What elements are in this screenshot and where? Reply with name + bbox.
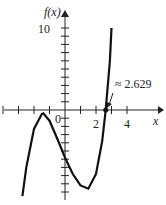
tick-label-2: 2	[93, 117, 99, 131]
x-axis-label: x	[152, 114, 159, 128]
root-annotation: ≈ 2.629	[115, 77, 152, 91]
root-marker	[103, 108, 108, 113]
tick-label-4: 4	[124, 117, 130, 131]
y-axis-label: f(x)	[44, 5, 61, 19]
y-axis-arrow-icon	[61, 10, 69, 17]
chart: f(x) x 0 2 4 10 ≈ 2.629	[0, 0, 166, 205]
tick-label-10: 10	[38, 22, 50, 36]
tick-label-0: 0	[55, 112, 61, 126]
function-curve	[22, 28, 111, 196]
x-axis-arrow-icon	[158, 106, 164, 114]
